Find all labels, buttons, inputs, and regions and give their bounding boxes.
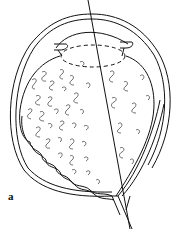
capsule-illustration bbox=[0, 0, 185, 229]
dashed-ellipse bbox=[61, 45, 125, 67]
outer-wall-inner bbox=[16, 19, 165, 168]
right-peristome-tooth bbox=[120, 42, 133, 56]
panel-label: a bbox=[8, 190, 14, 202]
spore-mass-left bbox=[20, 56, 118, 196]
